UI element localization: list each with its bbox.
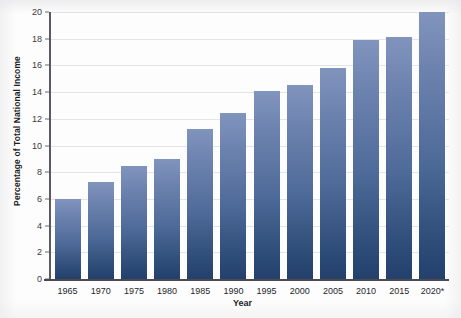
x-axis-tick-label: 1990 bbox=[223, 286, 243, 296]
x-axis-tick-label: 2015 bbox=[389, 286, 409, 296]
x-axis-tick-label: 1980 bbox=[157, 286, 177, 296]
x-axis-tick-label: 1985 bbox=[190, 286, 210, 296]
y-axis-tick-label: 0 bbox=[37, 274, 42, 284]
bar-slot bbox=[250, 12, 283, 279]
bar-1965[interactable] bbox=[55, 199, 81, 279]
bar-slot bbox=[51, 12, 84, 279]
y-axis-tick-label: 4 bbox=[37, 221, 42, 231]
bar-1990[interactable] bbox=[220, 113, 246, 279]
x-axis-tick-label: 2000 bbox=[290, 286, 310, 296]
bars-group bbox=[51, 12, 449, 279]
y-axis-tick-label: 12 bbox=[32, 114, 42, 124]
bar-1970[interactable] bbox=[88, 182, 114, 279]
y-axis-tick-label: 14 bbox=[32, 87, 42, 97]
bar-2005[interactable] bbox=[320, 68, 346, 279]
bar-1975[interactable] bbox=[121, 166, 147, 279]
bar-1985[interactable] bbox=[187, 129, 213, 279]
bar-slot bbox=[350, 12, 383, 279]
bar-slot bbox=[383, 12, 416, 279]
y-axis-tick-label: 20 bbox=[32, 7, 42, 17]
bar-slot bbox=[217, 12, 250, 279]
x-axis-tick-label: 2005 bbox=[323, 286, 343, 296]
bar-1980[interactable] bbox=[154, 159, 180, 279]
y-axis-tick-label: 10 bbox=[32, 141, 42, 151]
x-axis-tick-label: 1965 bbox=[58, 286, 78, 296]
bar-2015[interactable] bbox=[386, 37, 412, 279]
bar-slot bbox=[84, 12, 117, 279]
y-axis-tick-label: 16 bbox=[32, 60, 42, 70]
plot-area: 02468101214161820 1965197019751980198519… bbox=[49, 12, 449, 279]
x-axis-spine bbox=[44, 279, 449, 281]
bar-2010[interactable] bbox=[353, 40, 379, 279]
bar-slot bbox=[151, 12, 184, 279]
bar-slot bbox=[316, 12, 349, 279]
bar-1995[interactable] bbox=[254, 91, 280, 279]
bar-slot bbox=[416, 12, 449, 279]
x-axis-tick-label: 2020* bbox=[421, 286, 445, 296]
x-axis-tick-label: 2010 bbox=[356, 286, 376, 296]
x-axis-tick-label: 1995 bbox=[257, 286, 277, 296]
bar-slot bbox=[184, 12, 217, 279]
bar-2020-projected[interactable] bbox=[419, 12, 445, 279]
y-axis-tick-label: 6 bbox=[37, 194, 42, 204]
bar-2000[interactable] bbox=[287, 85, 313, 279]
y-axis-tick-label: 18 bbox=[32, 34, 42, 44]
x-axis-title: Year bbox=[36, 298, 449, 308]
x-axis-tick-label: 1975 bbox=[124, 286, 144, 296]
bar-slot bbox=[117, 12, 150, 279]
x-axis-tick-label: 1970 bbox=[91, 286, 111, 296]
y-axis-tick-label: 2 bbox=[37, 247, 42, 257]
bar-chart-figure: Percentage of Total National Income Year… bbox=[0, 0, 461, 318]
y-axis-title: Percentage of Total National Income bbox=[12, 31, 22, 231]
y-axis-tick-label: 8 bbox=[37, 167, 42, 177]
bar-slot bbox=[283, 12, 316, 279]
